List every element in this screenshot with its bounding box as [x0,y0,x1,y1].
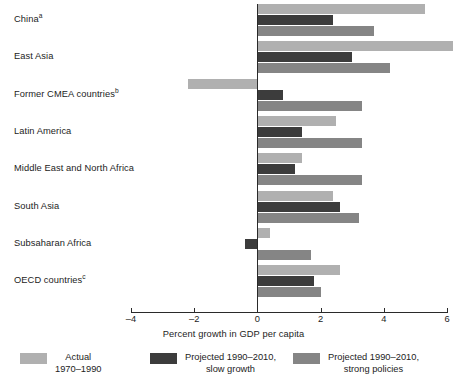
bar [188,79,258,89]
category-footnote-marker: c [82,273,85,280]
category-footnote-marker: b [115,87,119,94]
bar [257,287,320,297]
bar [257,52,352,62]
legend-item: Projected 1990–2010,slow growth [150,352,276,375]
bar [257,116,336,126]
legend-label-line2: slow growth [185,364,276,376]
x-axis-tick-label: –2 [189,315,199,324]
x-axis-tick [257,308,258,312]
legend-label-line2: strong policies [328,364,419,376]
x-axis-tick [194,308,195,312]
x-axis-tick-label: –4 [126,315,136,324]
gdp-growth-bar-chart: ChinaaEast AsiaFormer CMEA countriesbLat… [0,0,467,390]
category-label: East Asia [14,52,53,61]
bar [257,4,424,14]
x-axis-tick-label: 0 [255,315,260,324]
bar [257,15,333,25]
category-label: South Asia [14,202,59,211]
x-axis-tick-label: 4 [381,315,386,324]
x-axis-tick-label: 2 [318,315,323,324]
bar [257,191,333,201]
bar [257,26,374,36]
x-axis-tick [321,308,322,312]
legend-label-line1: Actual [55,352,102,364]
bar [257,202,339,212]
chart-legend: Actual1970–1990Projected 1990–2010,slow … [0,352,467,388]
legend-item: Actual1970–1990 [20,352,102,375]
x-axis-tick-label: 6 [444,315,449,324]
legend-label-line2: 1970–1990 [55,364,102,376]
legend-item: Projected 1990–2010,strong policies [293,352,419,375]
bar [257,63,390,73]
category-label: Chinaa [14,15,42,24]
category-label: Latin America [14,127,71,136]
legend-label-line1: Projected 1990–2010, [328,352,419,364]
legend-label: Actual1970–1990 [55,352,102,375]
bar [257,265,339,275]
bar [257,250,311,260]
bar [257,101,361,111]
bar [245,239,258,249]
bar [257,164,295,174]
bar [257,175,361,185]
legend-label: Projected 1990–2010,slow growth [185,352,276,375]
x-axis-line [131,312,448,313]
bar [257,276,314,286]
category-label: Former CMEA countriesb [14,90,119,99]
legend-swatch [20,353,47,364]
x-axis-tick [131,308,132,312]
bar [257,90,282,100]
bar [257,41,453,51]
category-label: OECD countriesc [14,276,86,285]
x-axis-tick [447,308,448,312]
bar [257,228,270,238]
legend-swatch [150,353,177,364]
category-label: Middle East and North Africa [14,164,134,173]
legend-label-line1: Projected 1990–2010, [185,352,276,364]
bar [257,153,301,163]
plot-area [0,0,467,310]
legend-swatch [293,353,320,364]
legend-label: Projected 1990–2010,strong policies [328,352,419,375]
x-axis-title: Percent growth in GDP per capita [0,329,467,339]
category-footnote-marker: a [39,12,43,19]
bar [257,213,358,223]
x-axis-tick [384,308,385,312]
category-label: Subsaharan Africa [14,239,91,248]
bar [257,127,301,137]
bar [257,138,361,148]
zero-axis-line [257,4,258,309]
